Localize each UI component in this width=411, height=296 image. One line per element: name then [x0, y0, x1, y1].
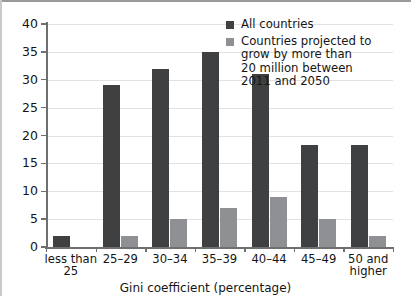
bar-chart: 4035302520151050 less than2525–2930–3435…: [0, 0, 411, 296]
legend-label-line-3: 20 million between: [241, 61, 353, 75]
x-category-label-line-2: higher: [350, 264, 387, 278]
figure-top-rule: [0, 0, 411, 2]
x-tick-mark: [343, 247, 344, 252]
legend-swatch-icon-all-countries: [226, 21, 234, 29]
y-tick-label: 10: [0, 185, 38, 197]
legend-item-all-countries: All countries: [226, 18, 406, 32]
legend: All countries Countries projected togrow…: [226, 18, 406, 92]
y-tick-label: 20: [0, 130, 38, 142]
bar-all-countries: [103, 85, 120, 247]
bar-all-countries: [252, 74, 269, 247]
x-axis-title: Gini coefficient (percentage): [0, 281, 411, 295]
x-category-label-line-1: 40–44: [251, 252, 286, 266]
y-tick-label: 15: [0, 157, 38, 169]
x-category-label-line-2: 25: [63, 264, 78, 278]
legend-label-line-1: Countries projected to: [241, 34, 371, 48]
x-tick-mark: [195, 247, 196, 252]
x-tick-mark: [244, 247, 245, 252]
bar-all-countries: [202, 52, 219, 247]
bar-all-countries: [152, 69, 169, 247]
x-tick-mark: [393, 247, 394, 252]
legend-label-line-2: grow by more than: [241, 47, 352, 61]
legend-swatch-icon-projected-growth: [226, 38, 234, 46]
legend-label-projected-growth: Countries projected togrow by more than2…: [226, 35, 406, 89]
y-tick-label: 40: [0, 18, 38, 30]
bar-projected-growth: [369, 236, 386, 247]
bar-all-countries: [301, 145, 318, 247]
bar-all-countries: [351, 145, 368, 247]
bar-projected-growth: [220, 208, 237, 247]
x-axis-line: [45, 247, 394, 249]
bar-projected-growth: [170, 219, 187, 247]
bar-projected-growth: [121, 236, 138, 247]
x-category-label-line-1: 45–49: [301, 252, 336, 266]
x-category-label-line-1: 35–39: [202, 252, 237, 266]
x-tick-mark: [294, 247, 295, 252]
y-tick-label: 35: [0, 46, 38, 58]
x-category-label-line-1: 30–34: [152, 252, 187, 266]
bar-all-countries: [53, 236, 70, 247]
legend-label-all-countries: All countries: [226, 18, 406, 32]
bar-projected-growth: [319, 219, 336, 247]
x-tick-mark: [145, 247, 146, 252]
y-tick-label: 0: [0, 241, 38, 253]
legend-label-line-4: 2011 and 2050: [241, 74, 330, 88]
y-tick-label: 30: [0, 74, 38, 86]
x-category-label-line-1: 25–29: [103, 252, 138, 266]
legend-item-projected-growth: Countries projected togrow by more than2…: [226, 35, 406, 89]
y-tick-label: 25: [0, 102, 38, 114]
y-tick-label: 5: [0, 213, 38, 225]
bar-projected-growth: [270, 197, 287, 247]
x-category-label: 50 andhigher: [335, 253, 401, 278]
